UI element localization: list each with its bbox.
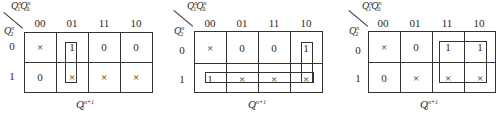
cell-r0-c1: 0 [226,33,258,63]
cell-r1-c1: × [400,63,432,93]
row-header: 0 [352,44,364,56]
row-variable-label: Qn2 [349,25,358,37]
row-header: 0 [6,40,18,52]
row-variable-label: Qn2 [174,25,183,37]
cell-r0-c1: 0 [400,32,432,62]
column-header: 01 [56,17,88,29]
grouping-loop-row [205,72,314,83]
kmap-q2: Qn1Qn0 Qn2 00 01 11 10 0 1 × 1 0 0 0 × ×… [0,0,165,118]
row-header: 1 [352,72,364,84]
cell-r0-c0: × [194,33,226,63]
cell-r0-c2: 0 [258,33,290,63]
map-title: Qn+11 [248,98,256,111]
column-variables-label: Qn1Qn0 [11,0,29,12]
column-header: 10 [290,17,322,29]
row-header: 1 [176,73,188,85]
grouping-loop [65,42,77,83]
row-header: 1 [6,70,18,82]
cell-r1-c0: 0 [368,63,400,93]
column-variables-label: Qn1Qn0 [187,0,205,12]
row-variable-label: Qn2 [4,25,13,37]
cell-r0-c0: × [24,32,56,62]
column-header: 00 [194,17,226,29]
cell-r1-c2: × [88,62,120,92]
column-header: 11 [88,17,120,29]
kmap-q1: Qn1Qn0 Qn2 00 01 11 10 0 1 × 0 0 1 1 × ×… [166,0,331,118]
cell-r1-c3: × [120,62,152,92]
map-title: Qn+12 [76,98,84,111]
column-header: 01 [226,17,258,29]
column-variables-label: Qn1Qn0 [362,0,380,12]
map-title: Qn+10 [420,98,428,111]
column-header: 00 [24,17,56,29]
column-header: 11 [258,17,290,29]
row-header: 0 [176,44,188,56]
cell-r1-c0: 0 [24,62,56,92]
column-header: 11 [431,17,463,29]
cell-r0-c0: × [368,32,400,62]
cell-r0-c3: 0 [120,32,152,62]
grouping-loop-square [439,41,487,83]
column-header: 10 [463,17,495,29]
column-header: 10 [120,17,152,29]
cell-r0-c2: 0 [88,32,120,62]
column-header: 00 [367,17,399,29]
column-header: 01 [399,17,431,29]
kmap-q0: Qn1Qn0 Qn2 00 01 11 10 0 1 × 0 1 1 0 × ×… [332,0,497,118]
